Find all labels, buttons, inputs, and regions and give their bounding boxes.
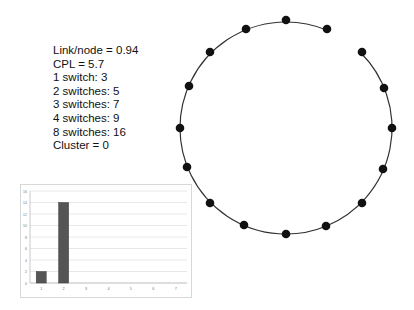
- network-node: [322, 222, 331, 231]
- y-tick-label: 8: [25, 236, 27, 240]
- network-node: [282, 16, 291, 25]
- x-tick-label: 4: [107, 287, 109, 291]
- y-tick-label: 10: [23, 224, 27, 228]
- x-tick-label: 6: [152, 287, 154, 291]
- network-node: [379, 165, 388, 174]
- network-node: [176, 124, 185, 133]
- network-node: [206, 199, 215, 208]
- network-node: [358, 48, 367, 57]
- network-node: [242, 25, 251, 34]
- x-tick-label: 5: [130, 287, 132, 291]
- network-node: [388, 124, 397, 133]
- y-tick-label: 16: [23, 190, 27, 194]
- network-node: [206, 48, 215, 57]
- network-node: [282, 230, 291, 239]
- bar-chart-plot: 02468101214161234567: [21, 185, 191, 297]
- y-tick-label: 6: [25, 247, 27, 251]
- x-tick-label: 2: [63, 287, 65, 291]
- network-node: [380, 84, 389, 93]
- x-tick-label: 7: [175, 287, 177, 291]
- y-tick-label: 0: [25, 282, 27, 286]
- network-node: [185, 82, 194, 91]
- x-tick-label: 1: [40, 287, 42, 291]
- y-tick-label: 4: [25, 259, 27, 263]
- y-tick-label: 14: [23, 201, 27, 205]
- switch-histogram-chart: 02468101214161234567: [20, 184, 192, 298]
- y-tick-label: 2: [25, 270, 27, 274]
- y-tick-label: 12: [23, 213, 27, 217]
- bar: [59, 203, 69, 284]
- x-tick-label: 3: [85, 287, 87, 291]
- network-node: [358, 199, 367, 208]
- network-node: [183, 163, 192, 172]
- network-node: [240, 221, 249, 230]
- bar: [36, 272, 46, 284]
- network-node: [323, 25, 332, 34]
